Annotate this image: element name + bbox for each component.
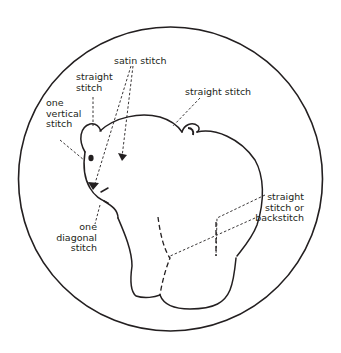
bear-face [84,152,108,203]
bear-right-eye [118,153,127,161]
label-one-diagonal-stitch: one diagonal stitch [54,222,97,254]
bear-chest [104,201,118,218]
leg-contours [158,217,216,295]
bear-mouth [101,188,108,192]
bear-features [88,128,193,190]
leader-straight-right [172,98,200,127]
label-satin-stitch: satin stitch [114,56,166,67]
stitch-diagram: satin stitch straight stitch one vertica… [0,0,341,353]
bear-inner-ear [188,128,193,135]
embroidery-hoop [19,27,323,331]
bear-rear-leg [160,258,236,309]
leader-vertical [60,140,84,160]
bear-left-eye [88,155,93,161]
bear-front-leg [118,218,160,298]
label-straight-stitch-ear: straight stitch [76,72,113,93]
leader-satin-to-eye [122,66,133,157]
label-straight-or-backstitch: straight stitch or backstitch [252,192,304,224]
diagram-drawing [0,0,341,353]
bear-outline [81,115,263,309]
label-straight-stitch-right: straight stitch [185,87,251,98]
bear-left-ear [81,124,101,152]
leader-back-2 [168,218,255,257]
label-one-vertical-stitch: one vertical stitch [46,98,81,130]
rear-leg-contour [158,217,170,295]
bear-head-top [100,115,182,132]
